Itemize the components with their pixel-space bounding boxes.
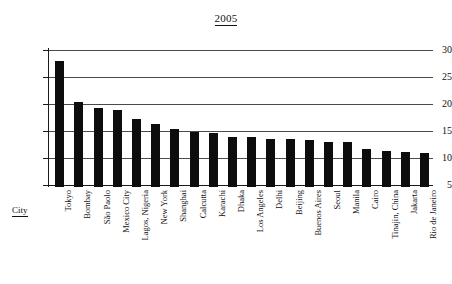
- bar: [209, 133, 218, 187]
- x-axis-category-label: Los Angeles: [255, 190, 265, 232]
- x-axis-category-label: Seoul: [332, 190, 342, 209]
- y-axis-tick: [43, 185, 49, 186]
- x-axis-category-label: Karachi: [217, 190, 227, 217]
- x-axis-category-label: Tinajin, China: [390, 190, 400, 239]
- bar: [324, 142, 333, 187]
- x-axis-category-label: Cairo: [370, 190, 380, 209]
- x-axis-baseline: [49, 185, 433, 186]
- x-axis-title-text: City: [12, 205, 28, 217]
- x-axis-category-label: São Paolo: [102, 190, 112, 224]
- x-axis-category-label: Buenos Aires: [313, 190, 323, 236]
- bar: [55, 61, 64, 187]
- chart-title-text: 2005: [215, 12, 238, 26]
- bar: [305, 140, 314, 187]
- bar: [420, 153, 429, 187]
- x-axis-category-label: Mexico City: [121, 190, 131, 233]
- gridline: [49, 158, 433, 159]
- bar: [382, 151, 391, 187]
- x-axis-category-label: Calcutta: [198, 190, 208, 218]
- bar: [170, 129, 179, 187]
- x-axis-category-label: Lagos, Nigeria: [140, 190, 150, 241]
- x-axis-category-label: Tokyo: [63, 190, 73, 212]
- bar: [190, 132, 199, 187]
- x-axis-category-label: Beijing: [294, 190, 304, 215]
- chart-title: 2005: [0, 12, 452, 24]
- bar: [228, 137, 237, 187]
- x-axis-category-label: Shanghai: [178, 190, 188, 222]
- bar: [362, 149, 371, 187]
- bar: [343, 142, 352, 187]
- bar: [74, 102, 83, 187]
- bar: [266, 139, 275, 187]
- gridline: [49, 50, 433, 51]
- gridline: [49, 77, 433, 78]
- bar: [247, 137, 256, 187]
- x-axis-category-label: Manila: [351, 190, 361, 214]
- bar: [151, 124, 160, 187]
- gridline: [49, 131, 433, 132]
- x-axis-title: City: [12, 205, 28, 215]
- bar: [132, 119, 141, 187]
- x-axis-category-label: Jakarta: [409, 190, 419, 214]
- bar: [113, 110, 122, 187]
- plot-area: [49, 50, 433, 185]
- x-axis-category-label: Dhaka: [236, 190, 246, 212]
- x-axis-category-label: New York: [159, 190, 169, 224]
- bar: [94, 108, 103, 187]
- x-axis-category-label: Bombay: [82, 190, 92, 219]
- x-axis-category-label: Delhi: [274, 190, 284, 209]
- gridline: [49, 104, 433, 105]
- x-axis-category-label: Rio de Janeiro: [428, 190, 438, 239]
- bar: [401, 152, 410, 187]
- bar: [286, 139, 295, 187]
- chart-screenshot: 2005 51015202530 TokyoBombaySão PaoloMex…: [0, 0, 452, 284]
